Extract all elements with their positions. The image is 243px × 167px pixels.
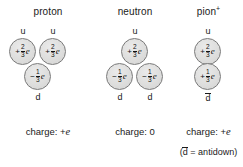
charge-sign: − bbox=[112, 73, 117, 81]
quark-label-neutron-u1: u bbox=[128, 26, 142, 36]
particle-title-neutron-text: neutron bbox=[118, 6, 153, 17]
charge-caption-proton-prefix: charge: + bbox=[26, 126, 66, 137]
charge-sign: − bbox=[30, 73, 35, 81]
fraction-denominator: 3 bbox=[206, 51, 210, 59]
antidown-symbol: d bbox=[205, 93, 210, 103]
quark-charge-neutron-down-1: − 1 3 e bbox=[112, 69, 126, 84]
charge-caption-neutron-value: 0 bbox=[150, 126, 155, 137]
fraction-denominator: 3 bbox=[21, 51, 25, 59]
fraction-numerator: 1 bbox=[118, 69, 122, 76]
fraction-denominator: 3 bbox=[51, 51, 55, 59]
charge-caption-pion: charge: +e bbox=[174, 126, 243, 137]
fraction-denominator: 3 bbox=[206, 76, 210, 84]
charge-caption-proton: charge: +e bbox=[0, 126, 96, 137]
antidown-footnote: (d = antidown) bbox=[174, 147, 243, 157]
quark-label-pion-antidown: d bbox=[201, 93, 215, 103]
quark-charge-proton-up-1: + 2 3 e bbox=[15, 44, 29, 59]
charge-unit: e bbox=[26, 47, 30, 56]
particle-panel-neutron: neutron u + 2 3 e − 1 3 e − 1 3 bbox=[96, 0, 174, 167]
quark-circle-proton-up-2: + 2 3 e bbox=[39, 38, 66, 65]
charge-fraction: 2 3 bbox=[133, 44, 137, 59]
charge-caption-neutron-prefix: charge: bbox=[115, 126, 149, 137]
fraction-numerator: 2 bbox=[21, 44, 25, 51]
charge-sign: + bbox=[200, 48, 205, 56]
charge-unit: e bbox=[56, 47, 60, 56]
charge-unit: e bbox=[153, 72, 157, 81]
fraction-denominator: 3 bbox=[36, 76, 40, 84]
quark-circle-proton-up-1: + 2 3 e bbox=[9, 38, 36, 65]
quark-circle-neutron-down-1: − 1 3 e bbox=[106, 63, 133, 90]
charge-fraction: 2 3 bbox=[21, 44, 25, 59]
quark-charge-pion-antidown-1: + 1 3 e bbox=[200, 69, 214, 84]
charge-caption-pion-unit: e bbox=[226, 126, 231, 137]
fraction-denominator: 3 bbox=[118, 76, 122, 84]
charge-fraction: 2 3 bbox=[206, 44, 210, 59]
charge-unit: e bbox=[41, 72, 45, 81]
charge-unit: e bbox=[211, 72, 215, 81]
quark-circle-proton-down-1: − 1 3 e bbox=[24, 63, 51, 90]
quark-circle-pion-up-1: + 2 3 e bbox=[194, 38, 221, 65]
quark-circle-pion-antidown-1: + 1 3 e bbox=[194, 63, 221, 90]
fraction-numerator: 2 bbox=[206, 44, 210, 51]
fraction-denominator: 3 bbox=[148, 76, 152, 84]
quark-label-proton-u2: u bbox=[46, 26, 60, 36]
quark-charge-pion-up-1: + 2 3 e bbox=[200, 44, 214, 59]
fraction-numerator: 1 bbox=[36, 69, 40, 76]
footnote-antidown-symbol: d bbox=[183, 147, 188, 157]
charge-caption-proton-unit: e bbox=[66, 126, 71, 137]
quark-label-neutron-d2: d bbox=[143, 92, 157, 102]
quark-label-pion-u1: u bbox=[201, 26, 215, 36]
fraction-numerator: 1 bbox=[206, 69, 210, 76]
particle-panel-proton: proton u u + 2 3 e + 2 3 e − 1 3 bbox=[0, 0, 96, 167]
particle-title-pion-superscript: + bbox=[216, 5, 220, 12]
fraction-numerator: 2 bbox=[51, 44, 55, 51]
charge-caption-neutron: charge: 0 bbox=[96, 126, 174, 137]
charge-fraction: 2 3 bbox=[51, 44, 55, 59]
charge-sign: − bbox=[142, 73, 147, 81]
charge-fraction: 1 3 bbox=[118, 69, 122, 84]
charge-unit: e bbox=[211, 47, 215, 56]
particle-title-proton: proton bbox=[0, 6, 96, 17]
quark-label-proton-d1: d bbox=[31, 92, 45, 102]
quark-circle-neutron-up-1: + 2 3 e bbox=[121, 38, 148, 65]
fraction-denominator: 3 bbox=[133, 51, 137, 59]
quark-circle-neutron-down-2: − 1 3 e bbox=[136, 63, 163, 90]
quark-label-neutron-d1: d bbox=[113, 92, 127, 102]
quark-charge-neutron-up-1: + 2 3 e bbox=[127, 44, 141, 59]
charge-unit: e bbox=[123, 72, 127, 81]
charge-fraction: 1 3 bbox=[148, 69, 152, 84]
charge-fraction: 1 3 bbox=[206, 69, 210, 84]
particle-title-proton-text: proton bbox=[34, 6, 63, 17]
particle-title-neutron: neutron bbox=[96, 6, 174, 17]
footnote-text: = antidown) bbox=[188, 147, 237, 157]
charge-sign: + bbox=[200, 73, 205, 81]
charge-sign: + bbox=[127, 48, 132, 56]
quark-charge-neutron-down-2: − 1 3 e bbox=[142, 69, 156, 84]
quark-label-proton-u1: u bbox=[16, 26, 30, 36]
particle-panel-pion: pion+ u + 2 3 e + 1 3 e d charge: +e (d … bbox=[174, 0, 243, 167]
fraction-numerator: 2 bbox=[133, 44, 137, 51]
particle-title-pion-text: pion bbox=[197, 6, 216, 17]
particle-title-pion: pion+ bbox=[174, 6, 243, 17]
fraction-numerator: 1 bbox=[148, 69, 152, 76]
charge-sign: + bbox=[15, 48, 20, 56]
quark-charge-proton-down-1: − 1 3 e bbox=[30, 69, 44, 84]
quark-charge-proton-up-2: + 2 3 e bbox=[45, 44, 59, 59]
charge-caption-pion-prefix: charge: + bbox=[186, 126, 226, 137]
charge-sign: + bbox=[45, 48, 50, 56]
charge-fraction: 1 3 bbox=[36, 69, 40, 84]
charge-unit: e bbox=[138, 47, 142, 56]
